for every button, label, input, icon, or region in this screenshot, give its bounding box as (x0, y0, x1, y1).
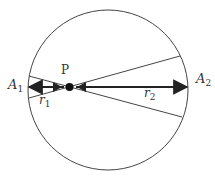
radius-arrows (29, 82, 187, 92)
label-a2: A2 (195, 71, 211, 88)
label-a1: A1 (7, 77, 23, 94)
label-r2: r2 (144, 86, 155, 102)
circle-chord-diagram: P A1 A2 r1 r2 (0, 0, 215, 176)
point-p (66, 83, 74, 91)
cone-line-lower-left-to-upper-right (29, 56, 180, 98)
circle (28, 10, 188, 170)
cone-line-upper-left-to-lower-right (29, 76, 182, 117)
label-p: P (61, 63, 69, 77)
label-r1: r1 (39, 93, 50, 109)
